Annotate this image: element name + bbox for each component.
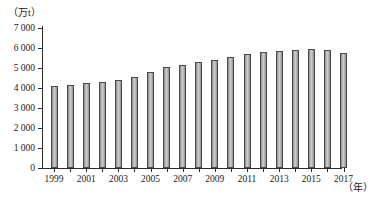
bar (244, 54, 251, 168)
x-axis-tick (70, 168, 71, 172)
bar (324, 50, 331, 168)
x-axis-tick-label: 2011 (238, 174, 257, 184)
bar (51, 86, 58, 168)
x-axis-tick (102, 168, 103, 172)
x-axis-tick (295, 168, 296, 172)
bar (147, 72, 154, 168)
bar (115, 80, 122, 168)
x-axis-tick (215, 168, 216, 172)
y-axis-tick-label: 2 000 (0, 123, 35, 133)
bar (131, 77, 138, 168)
y-axis-tick-label: 3 000 (0, 103, 35, 113)
y-axis-tick-label: 4 000 (0, 83, 35, 93)
x-axis-tick-label: 2001 (77, 174, 96, 184)
y-axis-tick-label: 6 000 (0, 43, 35, 53)
bar (83, 83, 90, 168)
x-axis-tick-label: 1999 (45, 174, 64, 184)
x-axis-tick (167, 168, 168, 172)
x-axis-tick (231, 168, 232, 172)
x-axis-tick-label: 2005 (141, 174, 160, 184)
x-axis-tick (134, 168, 135, 172)
x-axis-tick-label: 2007 (173, 174, 192, 184)
x-axis-tick-label: 2013 (270, 174, 289, 184)
y-axis-tick (38, 168, 42, 169)
x-axis-tick (327, 168, 328, 172)
bar-chart: （万t） （年） 7 0006 0005 0004 0003 0002 0001… (0, 0, 380, 202)
bar (308, 49, 315, 168)
bar (211, 60, 218, 168)
y-axis-tick-label: 1 000 (0, 143, 35, 153)
bar (276, 51, 283, 168)
x-axis-tick-label: 2003 (109, 174, 128, 184)
x-axis-tick (311, 168, 312, 172)
x-axis-tick-label: 2015 (302, 174, 321, 184)
y-axis-tick-label: 7 000 (0, 23, 35, 33)
x-axis-tick (344, 168, 345, 172)
x-axis-tick-label: 2017 (334, 174, 353, 184)
x-axis-tick (151, 168, 152, 172)
bar (195, 62, 202, 168)
bar (163, 67, 170, 168)
x-axis-tick (199, 168, 200, 172)
y-axis-tick-label: 5 000 (0, 63, 35, 73)
bar (340, 53, 347, 168)
x-axis-tick (279, 168, 280, 172)
bar (67, 85, 74, 168)
x-axis-tick (86, 168, 87, 172)
bar (179, 65, 186, 168)
x-axis-tick (54, 168, 55, 172)
y-axis-tick-label: 0 (0, 163, 35, 173)
x-axis-tick (118, 168, 119, 172)
bar (227, 57, 234, 168)
bar (292, 50, 299, 168)
x-axis-tick-label: 2009 (205, 174, 224, 184)
x-axis-tick (183, 168, 184, 172)
x-axis-tick (263, 168, 264, 172)
x-axis-tick (247, 168, 248, 172)
plot-area (42, 28, 362, 168)
bar (260, 52, 267, 168)
bar (99, 82, 106, 168)
